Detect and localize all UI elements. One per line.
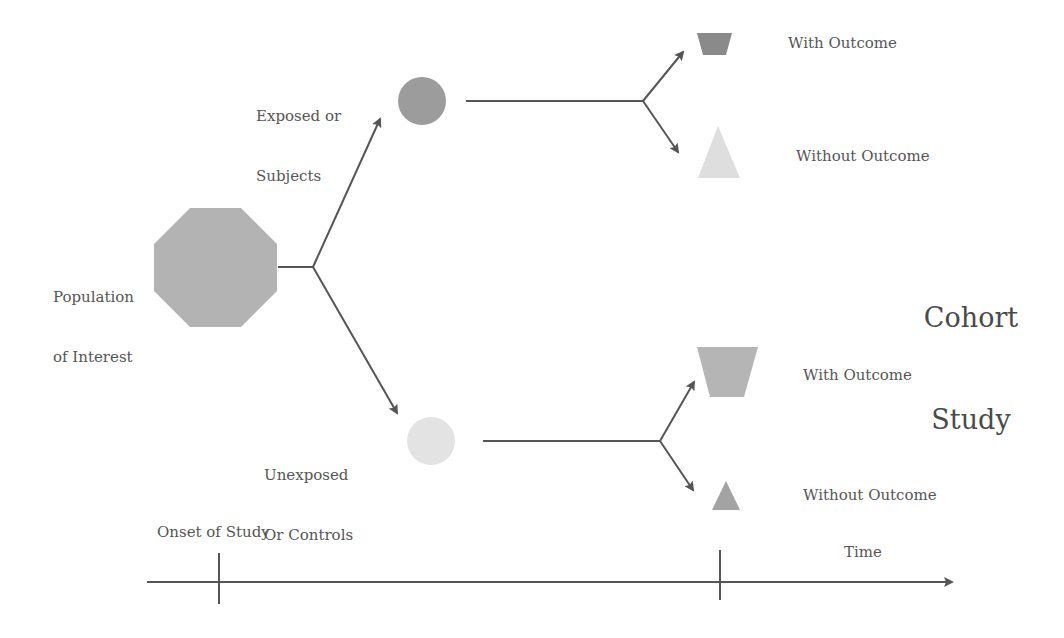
unexposed-with-outcome-trapezoid [697, 347, 758, 397]
arrow-exposed-without-outcome [643, 101, 678, 152]
exposed-label: Exposed or Subjects [256, 66, 341, 206]
exposed-label-line1: Exposed or [256, 106, 341, 126]
unexposed-with-outcome-label: With Outcome [803, 365, 912, 385]
exposed-with-outcome-label: With Outcome [788, 33, 897, 53]
exposed-circle [398, 77, 446, 125]
diagram-title-line1: Cohort [908, 301, 1034, 335]
population-label-line1: Population [53, 287, 134, 307]
exposed-label-line2: Subjects [256, 166, 341, 186]
arrow-unexposed-without-outcome [660, 441, 693, 490]
onset-of-study-label: Onset of Study [157, 522, 270, 542]
population-label: Population of Interest [53, 247, 134, 387]
exposed-with-outcome-trapezoid [697, 33, 732, 55]
unexposed-without-outcome-triangle [712, 481, 740, 510]
cohort-study-diagram [0, 0, 1064, 638]
diagram-title-line2: Study [908, 403, 1034, 437]
population-label-line2: of Interest [53, 347, 134, 367]
unexposed-label-line2: Or Controls [264, 525, 353, 545]
arrow-to-unexposed [313, 267, 397, 413]
exposed-without-outcome-triangle [698, 126, 740, 178]
diagram-title: Cohort Study [908, 233, 1034, 471]
arrow-exposed-with-outcome [643, 52, 683, 101]
exposed-without-outcome-label: Without Outcome [796, 146, 930, 166]
arrow-unexposed-with-outcome [660, 382, 694, 441]
population-octagon [154, 208, 277, 327]
time-label: Time [844, 542, 882, 562]
unexposed-without-outcome-label: Without Outcome [803, 485, 937, 505]
unexposed-circle [407, 417, 455, 465]
unexposed-label: Unexposed Or Controls [264, 425, 353, 565]
unexposed-label-line1: Unexposed [264, 465, 353, 485]
